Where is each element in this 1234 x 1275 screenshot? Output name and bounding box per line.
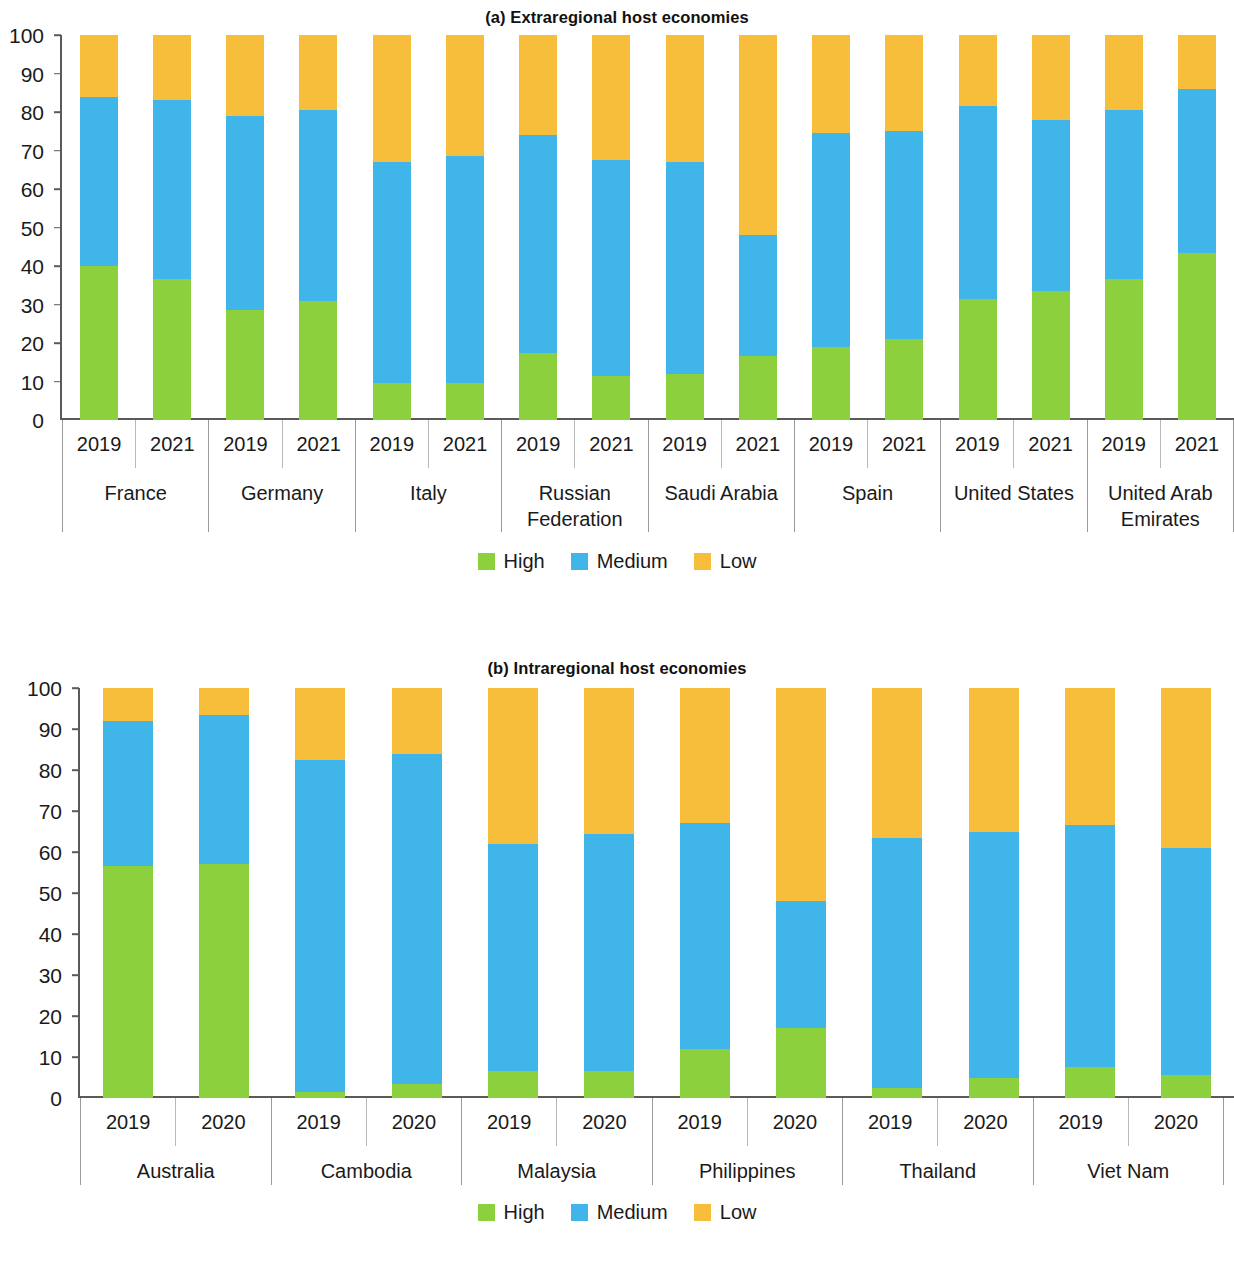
stacked-bar[interactable]: [584, 688, 634, 1098]
bar-segment-high: [153, 279, 191, 420]
y-axis-tick-label: 40: [39, 924, 62, 945]
bar-segment-medium: [103, 721, 153, 867]
stacked-bar[interactable]: [295, 688, 345, 1098]
bar-segment-high: [488, 1071, 538, 1098]
bar-segment-medium: [446, 156, 484, 383]
stacked-bar[interactable]: [739, 35, 777, 420]
stacked-bar[interactable]: [959, 35, 997, 420]
bar-segment-high: [584, 1071, 634, 1098]
bar-slot: [1161, 35, 1234, 420]
stacked-bar[interactable]: [103, 688, 153, 1098]
bar-segment-low: [592, 35, 630, 160]
stacked-bar[interactable]: [812, 35, 850, 420]
stacked-bar[interactable]: [1105, 35, 1143, 420]
y-axis-tick-label: 40: [21, 256, 44, 277]
bar-segment-medium: [592, 160, 630, 376]
y-axis-tick: [54, 342, 61, 344]
category-group: 20192020Malaysia: [462, 1098, 653, 1185]
stacked-bar[interactable]: [592, 35, 630, 420]
panel-b-y-axis: 1009080706050403020100: [0, 688, 72, 1098]
y-axis-tick-label: 10: [21, 371, 44, 392]
legend-item-medium[interactable]: Medium: [571, 1201, 668, 1224]
stacked-bar[interactable]: [969, 688, 1019, 1098]
bar-segment-medium: [666, 162, 704, 374]
stacked-bar[interactable]: [80, 35, 118, 420]
stacked-bar[interactable]: [680, 688, 730, 1098]
stacked-bar[interactable]: [373, 35, 411, 420]
category-year-row: 20192021: [795, 420, 940, 468]
bar-segment-high: [1161, 1075, 1211, 1098]
panel-extraregional: (a) Extraregional host economies 1009080…: [0, 0, 1234, 637]
stacked-bar[interactable]: [519, 35, 557, 420]
bar-segment-low: [1032, 35, 1070, 120]
y-axis-tick-label: 80: [21, 102, 44, 123]
legend-item-low[interactable]: Low: [694, 550, 757, 573]
stacked-bar[interactable]: [776, 688, 826, 1098]
bar-segment-high: [959, 299, 997, 420]
stacked-bar[interactable]: [488, 688, 538, 1098]
y-axis-tick: [72, 933, 79, 935]
category-group-label: Philippines: [653, 1146, 843, 1185]
legend-label: Low: [720, 550, 757, 573]
bar-slot: [502, 35, 575, 420]
legend-swatch-high-icon: [478, 1204, 495, 1221]
bar-segment-medium: [299, 110, 337, 301]
stacked-bar[interactable]: [872, 688, 922, 1098]
stacked-bar[interactable]: [299, 35, 337, 420]
category-group: 20192020Philippines: [653, 1098, 844, 1185]
legend-item-low[interactable]: Low: [694, 1201, 757, 1224]
bar-segment-medium: [969, 832, 1019, 1078]
legend-label: High: [504, 550, 545, 573]
y-axis-tick: [54, 265, 61, 267]
category-year-label: 2020: [747, 1098, 842, 1146]
bar-segment-low: [969, 688, 1019, 832]
stacked-bar[interactable]: [885, 35, 923, 420]
panel-b-legend: HighMediumLow: [0, 1201, 1234, 1224]
category-group: 20192021United Arab Emirates: [1088, 420, 1234, 532]
bar-slot: [795, 35, 868, 420]
bar-segment-medium: [885, 131, 923, 339]
bar-segment-low: [872, 688, 922, 838]
bar-segment-medium: [812, 133, 850, 347]
stacked-bar[interactable]: [1032, 35, 1070, 420]
bar-slot: [369, 688, 465, 1098]
category-year-label: 2019: [462, 1098, 556, 1146]
panel-b-axis-line: [72, 688, 80, 1098]
y-axis-tick: [72, 769, 79, 771]
bar-segment-low: [959, 35, 997, 106]
bar-segment-low: [153, 35, 191, 100]
bar-segment-low: [103, 688, 153, 721]
category-year-row: 20192020: [462, 1098, 652, 1146]
stacked-bar[interactable]: [392, 688, 442, 1098]
y-axis-tick: [54, 150, 61, 152]
bar-segment-high: [680, 1049, 730, 1098]
panel-a-y-axis: 1009080706050403020100: [0, 35, 54, 420]
bar-segment-low: [666, 35, 704, 162]
stacked-bar[interactable]: [1178, 35, 1216, 420]
stacked-bar[interactable]: [446, 35, 484, 420]
legend-item-high[interactable]: High: [478, 1201, 545, 1224]
bar-segment-low: [776, 688, 826, 901]
stacked-bar[interactable]: [199, 688, 249, 1098]
bar-segment-low: [1161, 688, 1211, 848]
bar-slot: [1138, 688, 1234, 1098]
bar-segment-medium: [1032, 120, 1070, 291]
category-group-label: Germany: [209, 468, 354, 507]
bar-slot: [868, 35, 941, 420]
y-axis-tick-label: 0: [50, 1088, 62, 1109]
stacked-bar[interactable]: [153, 35, 191, 420]
category-group: 20192021Spain: [795, 420, 941, 532]
category-group-label: Malaysia: [462, 1146, 652, 1185]
legend-item-medium[interactable]: Medium: [571, 550, 668, 573]
stacked-bar[interactable]: [1065, 688, 1115, 1098]
y-axis-tick-label: 30: [39, 965, 62, 986]
bar-segment-high: [226, 310, 264, 420]
bar-segment-high: [592, 376, 630, 420]
legend-item-high[interactable]: High: [478, 550, 545, 573]
category-year-label: 2020: [937, 1098, 1032, 1146]
y-axis-tick: [54, 227, 61, 229]
stacked-bar[interactable]: [666, 35, 704, 420]
bar-segment-low: [1178, 35, 1216, 89]
stacked-bar[interactable]: [226, 35, 264, 420]
stacked-bar[interactable]: [1161, 688, 1211, 1098]
